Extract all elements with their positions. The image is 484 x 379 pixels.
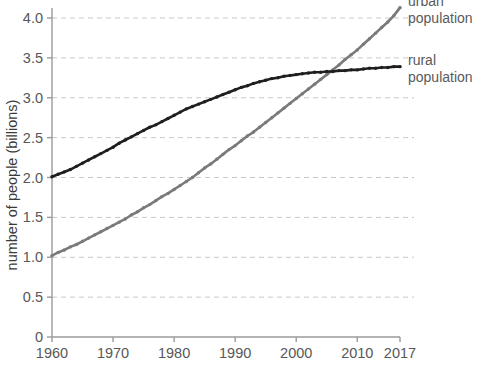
series-point [252,82,255,85]
series-point [197,171,200,174]
series-point [392,65,395,68]
series-point [392,14,395,17]
series-point [374,67,377,70]
series-point [356,48,359,51]
series-point [75,165,78,168]
series-point [264,121,267,124]
line-chart: 00.51.01.52.02.53.03.54.0 19601970198019… [0,0,484,379]
y-axis-title: number of people (billions) [4,100,20,271]
series-point [233,88,236,91]
series-label-line1: rural [408,52,436,68]
series-point [148,203,151,206]
series-point [136,132,139,135]
series-point [99,152,102,155]
series-point [368,37,371,40]
series-point [374,31,377,34]
series-point [69,168,72,171]
x-tick-label: 1960 [36,345,68,361]
series-point [75,243,78,246]
series-point [215,157,218,160]
series-point [172,114,175,117]
series-point [185,180,188,183]
series-point [81,240,84,243]
series-point [252,130,255,133]
series-point [166,117,169,120]
series-point [50,175,53,178]
series-point [276,111,279,114]
series-point [258,126,261,129]
series-point [319,71,322,74]
series-point [87,158,90,161]
series-point [270,116,273,119]
series-point [319,78,322,81]
series-point [349,68,352,71]
series-point [313,82,316,85]
series-point [63,248,66,251]
x-tick-label: 1970 [97,345,129,361]
series-point [258,80,261,83]
series-point [349,53,352,56]
series-point [56,173,59,176]
series-point [380,66,383,69]
series-point [124,217,127,220]
series-point [111,146,114,149]
series-point [179,110,182,113]
series-point [93,155,96,158]
series-point [105,149,108,152]
series-point [233,144,236,147]
series-point [209,162,212,165]
series-label-line1: urban [408,0,444,9]
series-point [301,72,304,75]
series-point [325,70,328,73]
y-tick-label: 0.5 [23,289,43,305]
series-point [301,92,304,95]
series-point [282,75,285,78]
series-point [99,230,102,233]
series-point [142,129,145,132]
series-point [117,142,120,145]
x-tick-label: 1990 [219,345,251,361]
y-tick-label: 2.5 [23,130,43,146]
series-point [343,69,346,72]
series-point [398,6,401,9]
x-tick-label: 1980 [158,345,190,361]
series-point [398,65,401,68]
series-point [111,224,114,227]
y-tick-label: 3.5 [23,50,43,66]
series-point [117,220,120,223]
series-point [356,68,359,71]
series-point [386,66,389,69]
x-tick-label: 2000 [280,345,312,361]
series-point [325,73,328,76]
series-point [185,107,188,110]
series-point [270,77,273,80]
series-point [368,67,371,70]
series-point [56,251,59,254]
x-tick-label: 2017 [384,345,416,361]
series-point [81,161,84,164]
series-point [313,71,316,74]
y-tick-label: 3.0 [23,90,43,106]
series-point [197,102,200,105]
series-point [203,100,206,103]
series-point [105,227,108,230]
series-point [160,120,163,123]
series-point [343,58,346,61]
series-point [136,210,139,213]
series-point [331,70,334,73]
y-tick-label: 4.0 [23,10,43,26]
series-point [166,192,169,195]
series-point [69,245,72,248]
series-point [63,170,66,173]
series-point [154,199,157,202]
series-point [240,139,243,142]
series-point [307,71,310,74]
series-point [386,20,389,23]
series-point [203,166,206,169]
y-tick-label: 1.5 [23,209,43,225]
series-point [295,73,298,76]
series-point [276,76,279,79]
x-tick-label: 2010 [341,345,373,361]
series-point [130,135,133,138]
series-point [240,86,243,89]
